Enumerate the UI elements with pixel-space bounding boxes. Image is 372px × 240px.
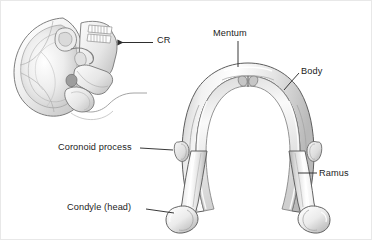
label-mentum: Mentum	[213, 29, 247, 38]
coronoid-leader-line	[140, 148, 173, 150]
label-cr: CR	[157, 36, 170, 45]
coronoid-process-left	[174, 141, 189, 161]
mentum-tubercle-right	[249, 76, 258, 86]
fetal-skull-group	[14, 18, 147, 120]
label-condyle-head: Condyle (head)	[67, 203, 131, 212]
mandible-group	[166, 63, 330, 233]
anatomy-illustration	[1, 1, 372, 240]
mandible-inner-arch	[196, 76, 300, 211]
label-body: Body	[301, 67, 322, 76]
mentum-tubercle-left	[238, 76, 247, 86]
label-ramus: Ramus	[319, 169, 349, 178]
anatomy-figure: CR Mentum Body Coronoid process Ramus Co…	[0, 0, 372, 240]
orbit-inner	[59, 32, 72, 46]
fetal-condyle	[66, 74, 77, 86]
coronoid-process-right	[307, 141, 322, 161]
label-coronoid-process: Coronoid process	[58, 143, 132, 152]
